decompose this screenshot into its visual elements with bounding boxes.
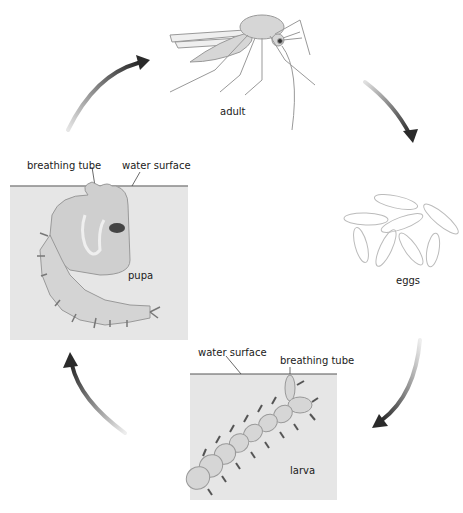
pupa-breathing-tube-callout: breathing tube xyxy=(27,160,101,171)
larva-water-surface-callout: water surface xyxy=(198,347,267,358)
eggs-label: eggs xyxy=(396,275,420,286)
larva-breathing-tube-callout: breathing tube xyxy=(280,355,354,366)
arrow-pupa-to-adult-icon xyxy=(68,55,150,130)
pupa-panel xyxy=(10,167,188,340)
arrow-adult-to-eggs-icon xyxy=(365,82,418,143)
larva-label: larva xyxy=(290,465,315,476)
arrow-larva-to-pupa-icon xyxy=(63,352,125,433)
pupa-water-surface-callout: water surface xyxy=(122,160,191,171)
eggs-illustration xyxy=(344,192,462,269)
pupa-label: pupa xyxy=(128,270,153,281)
adult-label: adult xyxy=(220,106,246,117)
arrow-eggs-to-larva-icon xyxy=(372,340,420,428)
larva-panel xyxy=(182,356,337,500)
life-cycle-diagram xyxy=(0,0,463,513)
